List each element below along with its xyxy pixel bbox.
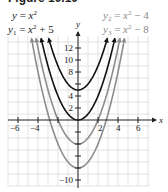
chart-plot: xy−6−42461210842−10 xyxy=(0,0,168,192)
x-tick-label: 2 xyxy=(98,123,103,133)
x-axis-label: x xyxy=(158,115,163,125)
x-tick-label: −6 xyxy=(10,123,20,133)
y-axis-label: y xyxy=(75,19,80,29)
axes: xy−6−42461210842−10 xyxy=(8,19,163,188)
y-tick-label: 12 xyxy=(64,43,73,53)
y-tick-label: 2 xyxy=(69,103,74,113)
y-tick-label: 4 xyxy=(69,91,74,101)
x-tick-label: −4 xyxy=(30,123,40,133)
y-tick-label: −10 xyxy=(59,175,74,185)
y-tick-label: 10 xyxy=(64,55,74,65)
grid-lines xyxy=(8,36,150,186)
x-tick-label: 6 xyxy=(136,123,141,133)
y-tick-label: 8 xyxy=(69,67,74,77)
x-tick-label: 4 xyxy=(116,123,121,133)
